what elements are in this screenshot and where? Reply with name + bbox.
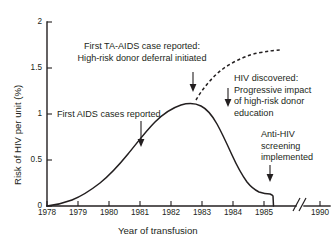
anti-hiv-arrow: [267, 165, 274, 182]
annotation-hiv-line2: Progressive impact: [234, 85, 311, 97]
x-axis-ticks: [47, 201, 320, 206]
annotation-anti-hiv-line2: screening: [261, 141, 313, 153]
ytick-label-2: 2: [28, 18, 42, 26]
hiv-discovered-arrow: [225, 88, 232, 107]
x-axis-title: Year of transfusion: [118, 226, 198, 236]
y-axis-ticks: [47, 22, 52, 206]
annotation-anti-hiv-line3: implemented: [261, 152, 313, 164]
y-axis-title: Risk of HIV per unit (%): [13, 85, 23, 185]
ytick-label-1-5: 1.5: [22, 64, 42, 72]
xtick-label-1984: 1984: [222, 209, 244, 217]
xtick-label-1978: 1978: [36, 209, 58, 217]
chart-figure: 2 1.5 1 0.5 0 1978 1979 1980 1981 1982 1…: [0, 0, 336, 248]
annotation-anti-hiv-screening: Anti-HIV screening implemented: [261, 129, 313, 164]
annotation-hiv-line3: of high-risk donor: [234, 96, 311, 108]
xtick-label-1982: 1982: [160, 209, 182, 217]
xtick-label-1979: 1979: [67, 209, 89, 217]
annotation-hiv-line4: education: [234, 108, 311, 120]
axis-break-icon: [293, 198, 306, 211]
ta-aids-arrow: [190, 72, 197, 92]
xtick-label-1990: 1990: [309, 209, 331, 217]
xtick-label-1983: 1983: [191, 209, 213, 217]
xtick-label-1980: 1980: [98, 209, 120, 217]
annotation-ta-aids-line1: First TA-AIDS case reported:: [62, 41, 222, 53]
annotation-ta-aids: First TA-AIDS case reported: High-risk d…: [62, 41, 222, 64]
ytick-label-1: 1: [28, 110, 42, 118]
ytick-label-0-5: 0.5: [22, 156, 42, 164]
annotation-first-aids-line1: First AIDS cases reported: [57, 109, 161, 121]
xtick-label-1985: 1985: [253, 209, 275, 217]
annotation-first-aids-cases: First AIDS cases reported: [57, 109, 161, 121]
annotation-ta-aids-line2: High-risk donor deferral initiated: [62, 53, 222, 65]
annotation-anti-hiv-line1: Anti-HIV: [261, 129, 313, 141]
annotation-hiv-discovered: HIV discovered: Progressive impact of hi…: [234, 73, 311, 119]
annotation-hiv-line1: HIV discovered:: [234, 73, 311, 85]
xtick-label-1981: 1981: [129, 209, 151, 217]
